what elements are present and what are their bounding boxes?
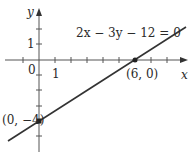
y-tick-label: 1: [27, 37, 35, 51]
y-axis-label: y: [26, 5, 34, 19]
graph-figure: y x 1 0 1 2x − 3y − 12 = 0 (6, 0) (0, −4…: [0, 0, 190, 164]
point-6-0: [133, 58, 138, 63]
x-axis-label: x: [181, 68, 188, 82]
y-axis-arrow-icon: [36, 8, 42, 16]
y-axis: [36, 8, 42, 152]
x-tick-label: 1: [52, 67, 60, 81]
origin-label: 0: [28, 63, 36, 77]
point-label-0-neg4: (0, −4): [2, 113, 44, 127]
equation-label: 2x − 3y − 12 = 0: [76, 26, 181, 40]
x-axis-arrow-icon: [180, 57, 188, 63]
point-label-6-0: (6, 0): [126, 67, 158, 81]
